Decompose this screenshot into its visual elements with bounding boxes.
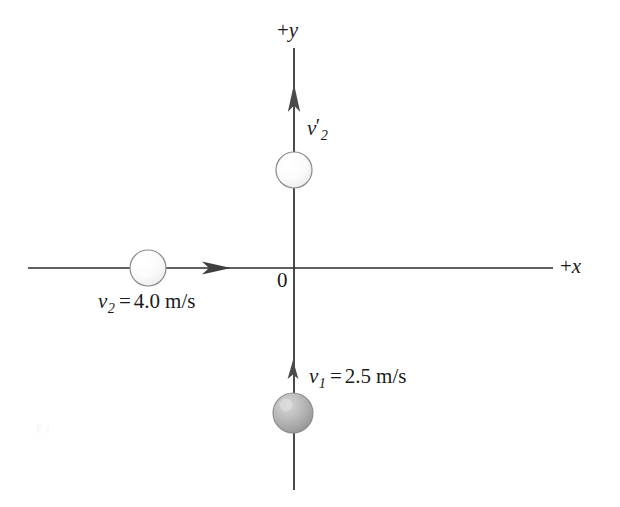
origin-label: 0 [277, 270, 288, 291]
v2-subscript: 2 [107, 300, 115, 316]
v2-unit: m/s [160, 289, 195, 313]
vector-v2-prime [288, 84, 300, 156]
axis-letter-x: x [572, 254, 581, 278]
axis-letter-y: y [289, 18, 298, 42]
vector-v1 [288, 360, 299, 398]
plus-sign-x: + [560, 254, 572, 278]
v2-symbol: v [98, 289, 107, 313]
velocity-label-v1: v1=2.5m/s [309, 366, 406, 390]
physics-vector-diagram: +y +x 0 v′2 v2=4.0m/s v1=2.5m/s [0, 0, 620, 507]
axis-label-positive-x: +x [560, 256, 581, 277]
velocity-label-v2: v2=4.0m/s [98, 291, 195, 315]
scan-artifact [37, 424, 49, 433]
v2-prime-symbol: v [307, 116, 316, 140]
v1-unit: m/s [371, 364, 406, 388]
velocity-label-v2-prime: v′2 [307, 117, 328, 142]
v1-subscript: 1 [318, 375, 326, 391]
plus-sign-y: + [277, 18, 289, 42]
vector-v2 [163, 261, 231, 274]
v2-equals: = [115, 289, 134, 313]
axis-label-positive-y: +y [277, 20, 298, 41]
v1-symbol: v [309, 364, 318, 388]
diagram-canvas [0, 0, 620, 507]
v1-equals: = [326, 364, 345, 388]
v2-prime-subscript: 2 [320, 127, 328, 143]
v2-value: 4.0 [134, 289, 160, 313]
v1-value: 2.5 [345, 364, 371, 388]
ball-v2 [130, 250, 166, 286]
ball-v2-prime [276, 152, 312, 188]
ball-v1 [273, 393, 313, 433]
